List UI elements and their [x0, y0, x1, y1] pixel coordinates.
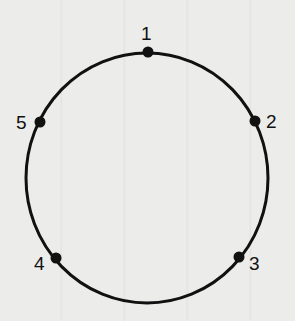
circle-outline	[26, 53, 268, 303]
point-label-1: 1	[141, 23, 152, 44]
point-marker-3	[234, 252, 245, 263]
point-marker-1	[143, 47, 154, 58]
point-label-5: 5	[16, 112, 27, 133]
point-marker-2	[250, 116, 261, 127]
point-1: 1	[141, 23, 154, 58]
diagram-canvas: 1 2 3 4 5	[0, 0, 295, 321]
point-4: 4	[34, 253, 62, 275]
point-label-4: 4	[34, 253, 45, 274]
point-2: 2	[250, 111, 277, 132]
point-marker-4	[51, 253, 62, 264]
point-label-2: 2	[266, 111, 277, 132]
point-marker-5	[35, 117, 46, 128]
point-label-3: 3	[249, 253, 260, 274]
circle-diagram: 1 2 3 4 5	[0, 0, 295, 321]
